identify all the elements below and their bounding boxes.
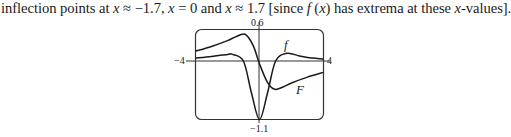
x-min-label: −4 bbox=[174, 56, 185, 66]
curve-f-label: f bbox=[284, 38, 288, 51]
y-max-label: 0.6 bbox=[251, 18, 264, 28]
x-max-label: 4 bbox=[327, 56, 332, 66]
y-min-label: −1.1 bbox=[250, 124, 268, 134]
curve-F-label: F bbox=[296, 83, 304, 96]
